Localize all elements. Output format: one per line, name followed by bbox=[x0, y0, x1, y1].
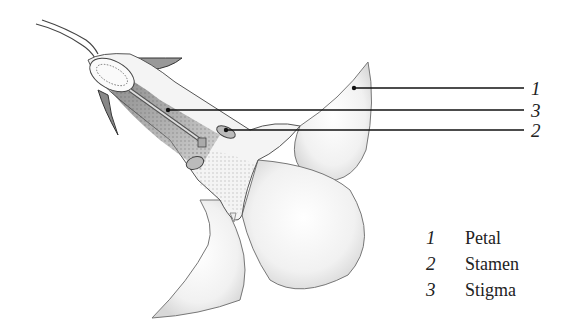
flower-diagram: 1 3 2 1 Petal 2 Stamen 3 Stigma bbox=[0, 0, 573, 327]
callout-number-stamen: 2 bbox=[531, 121, 541, 140]
legend-number: 2 bbox=[426, 253, 465, 275]
legend-number: 1 bbox=[426, 227, 465, 249]
legend-label: Stamen bbox=[465, 254, 519, 275]
legend-label: Stigma bbox=[465, 280, 516, 301]
legend-item-stigma: 3 Stigma bbox=[426, 279, 519, 305]
legend: 1 Petal 2 Stamen 3 Stigma bbox=[426, 227, 519, 305]
legend-label: Petal bbox=[465, 228, 501, 249]
callout-number-stigma: 3 bbox=[531, 101, 541, 120]
legend-item-stamen: 2 Stamen bbox=[426, 253, 519, 279]
callout-number-petal: 1 bbox=[531, 79, 541, 98]
legend-item-petal: 1 Petal bbox=[426, 227, 519, 253]
legend-number: 3 bbox=[426, 279, 465, 301]
